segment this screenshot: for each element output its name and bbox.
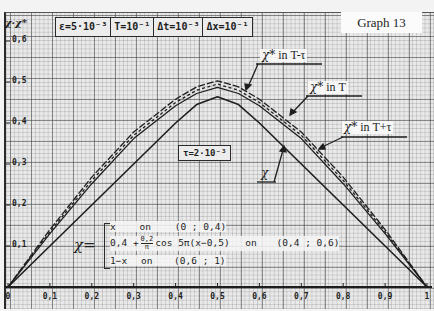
y-axis-label: χ·χ*	[5, 17, 27, 28]
x-tick-label: 0	[6, 292, 11, 301]
x-tick-label: 0,8	[336, 292, 350, 301]
x-tick-label: 0,9	[378, 292, 392, 301]
x-tick-label: 0,7	[294, 292, 308, 301]
arrow-icon	[245, 84, 251, 90]
y-tick-label: 0,6	[12, 35, 26, 44]
arrow-icon	[319, 144, 325, 149]
formula-row-3: 1−x on (0,6 ; 1)	[110, 255, 226, 266]
param-T: T=10⁻¹	[111, 18, 154, 36]
on-word: on	[141, 255, 152, 266]
interval: (0,6 ; 1)	[174, 255, 225, 266]
label-chi-star-t: χ* in T	[308, 81, 348, 94]
y-tick-label: 0,1	[12, 240, 26, 249]
graph-title: Graph 13	[341, 12, 422, 33]
tau-box: τ=2·10⁻³	[178, 145, 231, 161]
on-word: on	[245, 237, 256, 248]
y-tick-label: 0,4	[12, 117, 26, 126]
formula-row-2: 0,4 +0,2πcos 5π(x−0,5) on (0,4 ; 0,6)	[110, 236, 339, 251]
label-text: in T	[323, 80, 345, 94]
chi-star-symbol: χ*	[262, 48, 275, 62]
formula-row-1: x on (0 ; 0,4)	[110, 221, 226, 232]
x-tick-label: 1	[425, 292, 430, 301]
label-text: in T+τ	[357, 120, 391, 134]
expr: 1−x	[110, 255, 127, 266]
y-tick-label: 0,5	[12, 76, 26, 85]
chi-symbol: χ	[261, 166, 268, 180]
x-tick-label: 0,4	[168, 292, 182, 301]
label-chi-star-t-plus-tau: χ* in T+τ	[342, 121, 393, 134]
param-dx: Δx=10⁻¹	[203, 18, 251, 36]
label-text: in T-τ	[275, 48, 305, 62]
interval: (0,4 ; 0,6)	[277, 237, 340, 248]
x-tick-label: 0,3	[126, 292, 140, 301]
interval: (0 ; 0,4)	[175, 221, 226, 232]
y-tick-label: 0,2	[12, 199, 26, 208]
param-dt: Δt=10⁻³	[154, 18, 203, 36]
x-tick-label: 0,1	[43, 292, 57, 301]
expr-b: cos 5π(x−0,5)	[155, 237, 229, 248]
x-tick-label: 0,6	[252, 292, 266, 301]
x-tick-label: 0,2	[85, 292, 99, 301]
y-tick-label: 0,3	[12, 158, 26, 167]
label-chi-star-t-minus-tau: χ* in T-τ	[260, 49, 307, 62]
chi-star-symbol: χ*	[344, 120, 357, 134]
arrow-icon	[280, 146, 286, 152]
fraction-denominator: π	[141, 244, 154, 251]
label-chi: χ	[259, 167, 270, 180]
param-epsilon: ε=5·10⁻³	[56, 18, 111, 36]
x-tick-label: 0,5	[210, 292, 224, 301]
expr-a: 0,4 +	[110, 237, 139, 248]
formula-lhs: χ=	[74, 236, 96, 254]
on-word: on	[139, 221, 150, 232]
fraction: 0,2π	[141, 236, 154, 251]
expr: x	[110, 221, 116, 232]
parameters-box: ε=5·10⁻³ T=10⁻¹ Δt=10⁻³ Δx=10⁻¹	[55, 17, 253, 37]
chi-star-symbol: χ*	[310, 80, 323, 94]
